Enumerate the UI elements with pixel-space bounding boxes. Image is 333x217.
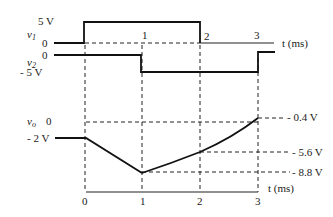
- v2-zero-label: 0: [42, 49, 48, 61]
- vo-04v-label: - 0.4 V: [287, 111, 318, 123]
- t-axis-label-bottom: t (ms): [268, 182, 294, 195]
- vo-56v-label: - 5.6 V: [292, 146, 323, 158]
- diagram-canvas: 5 V v1 0 1 2 3 t (ms) 0 v2 - 5 V vo 0 - …: [0, 0, 333, 217]
- tick-bot-3: 3: [255, 195, 261, 207]
- tick-bot-1: 1: [140, 195, 146, 207]
- waveform-diagram: 5 V v1 0 1 2 3 t (ms) 0 v2 - 5 V vo 0 - …: [0, 0, 333, 217]
- v1-name-label: v1: [27, 28, 36, 42]
- v1-zero-label: 0: [42, 37, 48, 49]
- vo-trace-ramp-down: [55, 138, 142, 173]
- t-axis-label-top: t (ms): [282, 37, 308, 50]
- v1-5v-label: 5 V: [38, 15, 54, 27]
- tick-bot-2: 2: [197, 195, 203, 207]
- v2-trace: [54, 52, 275, 72]
- v1-trace: [54, 22, 200, 43]
- v2-neg5v-label: - 5 V: [20, 66, 42, 78]
- tick-top-3: 3: [254, 29, 260, 41]
- tick-top-2: 2: [204, 30, 210, 42]
- vo-name-label: vo: [27, 115, 36, 129]
- tick-bot-0: 0: [82, 195, 88, 207]
- vo-88v-label: - 8.8 V: [292, 166, 323, 178]
- vo-neg2v-label: - 2 V: [27, 132, 49, 144]
- vo-zero-label: 0: [46, 115, 52, 127]
- tick-top-1: 1: [142, 29, 148, 41]
